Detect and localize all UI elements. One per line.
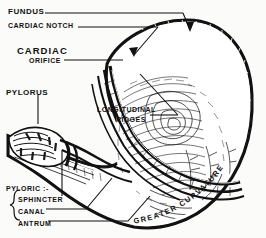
label-orifice: ORIFICE xyxy=(29,57,61,64)
label-pyloric: PYLORIC :- xyxy=(6,185,49,192)
label-pylorus: PYLORUS xyxy=(6,89,48,97)
label-sphincter: SPHINCTER xyxy=(18,196,63,203)
label-cardiac-notch: CARDIAC NOTCH xyxy=(8,22,74,29)
label-ridges: RIDGES xyxy=(116,116,146,123)
label-longitudinal: LONGITUDINAL xyxy=(97,106,156,113)
anatomical-diagram: GREATER CURVATURE FUNDUS CARDIAC NOTCH C… xyxy=(0,0,266,238)
label-cardiac: CARDIAC xyxy=(17,46,68,56)
label-antrum: ANTRUM xyxy=(18,220,51,227)
label-canal: CANAL xyxy=(18,208,45,215)
pyloric-brace xyxy=(10,190,20,220)
label-fundus: FUNDUS xyxy=(8,8,44,16)
